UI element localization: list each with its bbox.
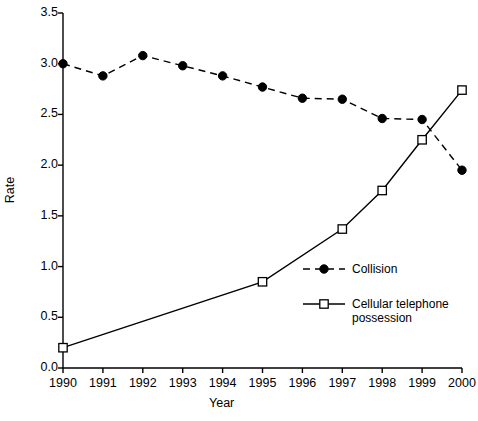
y-tick-label: 3.0 [24,56,58,70]
y-tick-label: 3.5 [24,5,58,19]
line-chart-plot: Rate [0,0,478,421]
x-tick-label: 1992 [122,376,164,390]
legend-label-cellular-telephone-possession: Cellular telephone possession [352,297,449,325]
x-tick-label: 1998 [361,376,403,390]
y-tick-label: 2.0 [24,157,58,171]
x-tick-label: 1996 [281,376,323,390]
x-tick-label: 1991 [82,376,124,390]
x-tick-label: 1995 [242,376,284,390]
y-axis-title: Rate [3,177,17,203]
x-tick-label: 1999 [401,376,443,390]
y-tick-label: 1.0 [24,259,58,273]
y-tick-label: 0.5 [24,309,58,323]
y-tick-label: 1.5 [24,208,58,222]
x-tick-label: 2000 [441,376,478,390]
legend-label-collision: Collision [352,262,397,276]
chart-container: Rate 0.00.51.01.52.02.53.03.5 1990199119… [0,0,478,421]
x-tick-label: 1994 [202,376,244,390]
x-tick-label: 1997 [321,376,363,390]
x-axis-title: Year [209,396,234,410]
y-axis-title-text: Rate [3,177,17,203]
legend-symbols [303,265,345,308]
y-tick-label: 0.0 [24,360,58,374]
y-tick-label: 2.5 [24,106,58,120]
x-tick-label: 1993 [162,376,204,390]
x-tick-label: 1990 [42,376,84,390]
